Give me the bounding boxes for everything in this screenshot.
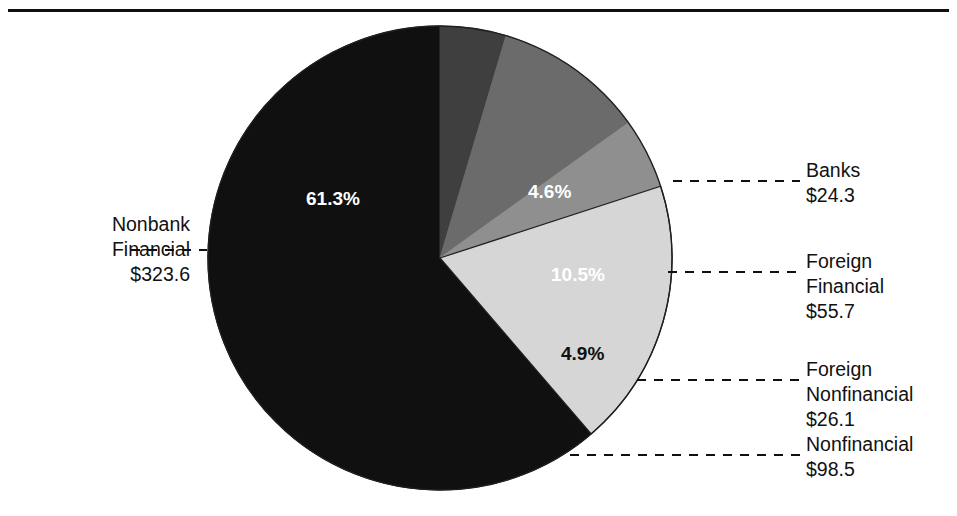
- callout-foreign-nonfinancial-line2: Nonfinancial: [806, 382, 913, 407]
- chart-page: 61.3%4.6%10.5%4.9%18.7% Nonbank Financia…: [0, 0, 957, 516]
- slice-percent-foreign-financial: 10.5%: [551, 264, 605, 285]
- callout-nonbank-financial-line1: Nonbank: [20, 212, 190, 237]
- callout-foreign-financial[interactable]: Foreign Financial $55.7: [806, 249, 884, 324]
- slice-percent-foreign-nonfinancial: 4.9%: [561, 343, 604, 364]
- callout-banks-value: $24.3: [806, 183, 860, 208]
- callout-nonbank-financial-line2: Financial: [20, 237, 190, 262]
- callout-nonfinancial[interactable]: Nonfinancial $98.5: [806, 432, 913, 482]
- slice-percent-nonfinancial: 18.7%: [462, 397, 516, 418]
- callout-foreign-financial-value: $55.7: [806, 299, 884, 324]
- callout-foreign-financial-line2: Financial: [806, 274, 884, 299]
- callout-nonbank-financial-value: $323.6: [20, 262, 190, 287]
- callout-nonfinancial-value: $98.5: [806, 457, 913, 482]
- callout-banks[interactable]: Banks $24.3: [806, 158, 860, 208]
- callout-foreign-financial-line1: Foreign: [806, 249, 884, 274]
- slice-percent-banks: 4.6%: [528, 181, 571, 202]
- callout-foreign-nonfinancial-line1: Foreign: [806, 357, 913, 382]
- callout-foreign-nonfinancial[interactable]: Foreign Nonfinancial $26.1: [806, 357, 913, 432]
- callout-foreign-nonfinancial-value: $26.1: [806, 407, 913, 432]
- slice-percent-nonbank-financial: 61.3%: [306, 188, 360, 209]
- callout-nonbank-financial[interactable]: Nonbank Financial $323.6: [20, 212, 190, 287]
- callout-nonfinancial-line1: Nonfinancial: [806, 432, 913, 457]
- callout-banks-line1: Banks: [806, 158, 860, 183]
